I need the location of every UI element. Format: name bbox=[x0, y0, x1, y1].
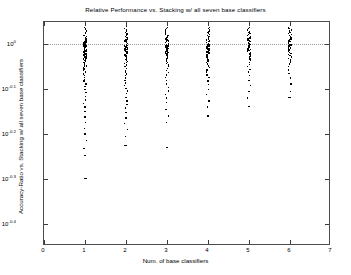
data-point bbox=[290, 38, 291, 39]
x-tick-label: 1 bbox=[82, 247, 85, 253]
data-point bbox=[83, 103, 84, 104]
chart-title: Relative Performance vs. Stacking w/ all… bbox=[0, 6, 351, 13]
y-tick-label: 10-0.1 bbox=[2, 84, 16, 92]
data-point bbox=[127, 38, 128, 39]
data-point bbox=[168, 90, 169, 91]
data-point bbox=[249, 64, 250, 65]
data-point bbox=[208, 53, 209, 54]
data-point bbox=[126, 35, 127, 36]
data-point bbox=[288, 66, 289, 67]
x-tick-label: 6 bbox=[287, 247, 290, 253]
x-tick-label: 2 bbox=[123, 247, 126, 253]
data-point bbox=[206, 69, 207, 70]
data-point bbox=[125, 117, 126, 118]
data-point bbox=[206, 39, 207, 40]
data-point bbox=[247, 97, 248, 98]
data-point bbox=[165, 94, 166, 95]
data-point bbox=[290, 83, 291, 84]
y-tick bbox=[44, 179, 48, 180]
data-point-outlier bbox=[248, 106, 249, 107]
data-point bbox=[208, 100, 209, 101]
y-tick bbox=[44, 44, 48, 45]
x-tick-label: 7 bbox=[328, 247, 331, 253]
y-tick-label: 10-0.4 bbox=[2, 219, 16, 227]
data-point bbox=[206, 71, 207, 72]
y-tick bbox=[44, 89, 48, 90]
x-axis-label: Num. of base classifiers bbox=[0, 257, 351, 264]
data-point bbox=[208, 77, 209, 78]
data-point bbox=[249, 69, 250, 70]
data-point bbox=[85, 83, 86, 84]
data-point bbox=[208, 89, 209, 90]
data-point bbox=[247, 51, 248, 52]
data-point bbox=[85, 71, 86, 72]
data-point bbox=[290, 48, 291, 49]
data-point bbox=[166, 70, 167, 71]
x-tick-label: 0 bbox=[41, 247, 44, 253]
x-tick-top bbox=[208, 22, 209, 26]
data-point bbox=[166, 102, 167, 103]
x-tick-label: 3 bbox=[164, 247, 167, 253]
y-tick bbox=[44, 134, 48, 135]
data-point bbox=[168, 40, 169, 41]
plot-area bbox=[43, 21, 330, 245]
data-point bbox=[289, 32, 290, 33]
data-point bbox=[165, 77, 166, 78]
data-point bbox=[84, 66, 85, 67]
data-point bbox=[126, 104, 127, 105]
data-point bbox=[250, 49, 251, 50]
data-point bbox=[249, 62, 250, 63]
y-tick bbox=[44, 224, 48, 225]
data-point bbox=[166, 122, 167, 123]
data-point bbox=[165, 33, 166, 34]
data-point bbox=[247, 66, 248, 67]
data-point bbox=[209, 67, 210, 68]
data-point bbox=[84, 86, 85, 87]
data-point bbox=[290, 61, 291, 62]
data-point bbox=[248, 80, 249, 81]
data-point bbox=[248, 91, 249, 92]
data-point bbox=[84, 89, 85, 90]
data-point bbox=[290, 91, 291, 92]
data-point bbox=[247, 35, 248, 36]
x-tick bbox=[44, 240, 45, 244]
data-point bbox=[206, 94, 207, 95]
data-point bbox=[126, 93, 127, 94]
data-point bbox=[125, 75, 126, 76]
data-point bbox=[85, 92, 86, 93]
data-point bbox=[127, 53, 128, 54]
data-point bbox=[288, 58, 289, 59]
data-point bbox=[207, 80, 208, 81]
data-point bbox=[249, 75, 250, 76]
data-point bbox=[84, 155, 85, 156]
data-point-outlier bbox=[84, 178, 85, 179]
data-point bbox=[85, 50, 86, 51]
data-point bbox=[84, 106, 85, 107]
x-tick-top bbox=[249, 22, 250, 26]
data-point bbox=[168, 87, 169, 88]
data-point bbox=[167, 37, 168, 38]
y-tick-right bbox=[325, 134, 329, 135]
data-point bbox=[83, 35, 84, 36]
data-point bbox=[127, 129, 128, 130]
data-point bbox=[288, 28, 289, 29]
data-point bbox=[166, 83, 167, 84]
y-axis-label: Accuracy-Ratio vs. Stacking w/ all seven… bbox=[17, 37, 24, 237]
data-point bbox=[84, 116, 85, 117]
data-point bbox=[250, 85, 251, 86]
data-point bbox=[208, 84, 209, 85]
data-point bbox=[124, 85, 125, 86]
data-point-outlier bbox=[125, 145, 126, 146]
data-point-outlier bbox=[207, 115, 208, 116]
x-tick bbox=[167, 240, 168, 244]
data-point bbox=[126, 64, 127, 65]
data-point bbox=[124, 80, 125, 81]
data-point bbox=[125, 97, 126, 98]
data-point bbox=[125, 88, 126, 89]
x-tick bbox=[126, 240, 127, 244]
data-point bbox=[291, 56, 292, 57]
data-point bbox=[125, 82, 126, 83]
data-point bbox=[291, 29, 292, 30]
data-point bbox=[289, 63, 290, 64]
data-point bbox=[84, 128, 85, 129]
